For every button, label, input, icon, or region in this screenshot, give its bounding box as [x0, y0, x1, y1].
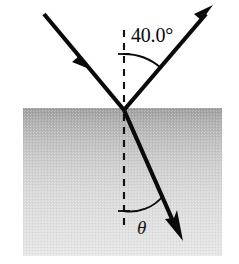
physics-figure: 40.0° θ [0, 0, 239, 264]
denser-medium-block [23, 108, 222, 256]
medium-texture [23, 108, 222, 256]
refraction-diagram-svg: 40.0° θ [0, 0, 239, 264]
reflection-angle-label: 40.0° [131, 24, 173, 46]
reflected-ray [124, 5, 213, 110]
reflection-angle-arc [124, 54, 161, 68]
incident-ray [44, 14, 124, 110]
refraction-angle-label: θ [137, 217, 146, 238]
